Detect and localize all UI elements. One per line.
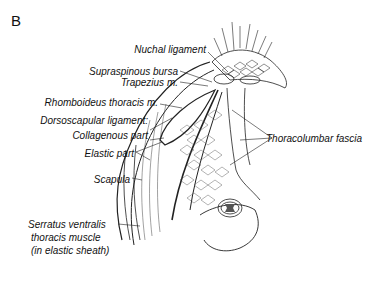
label-elastic-part: Elastic part — [50, 148, 134, 159]
label-serratus-line1: Serratus ventralis — [28, 219, 106, 230]
label-trapezius: Trapezius m. — [90, 77, 178, 88]
label-serratus-line3: (in elastic sheath) — [31, 245, 109, 256]
label-collagenous-part: Collagenous part — [40, 130, 148, 141]
label-nuchal-ligament: Nuchal ligament — [116, 44, 206, 55]
label-dorsoscapular-ligament: Dorsoscapular ligament: — [24, 115, 148, 126]
label-thoracolumbar-fascia: Thoracolumbar fascia — [266, 133, 362, 144]
label-rhomboideus: Rhomboideus thoracis m. — [20, 97, 158, 108]
label-serratus-line2: thoracis muscle — [31, 232, 100, 243]
label-scapula: Scapula — [60, 174, 130, 185]
label-supraspinous-bursa: Supraspinous bursa — [70, 66, 178, 77]
